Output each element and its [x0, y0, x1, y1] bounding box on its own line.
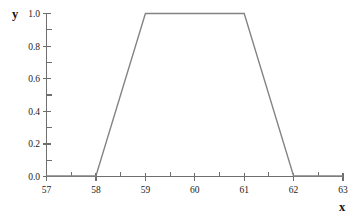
x-tick-label: 58	[91, 185, 101, 195]
x-tick-label: 60	[190, 185, 200, 195]
y-tick-label: 0.4	[28, 107, 40, 117]
axes-group	[46, 13, 343, 177]
x-tick-label: 59	[141, 185, 151, 195]
x-axis-title: x	[339, 200, 346, 214]
y-axis-minor-ticks	[47, 30, 52, 160]
y-tick-label: 1.0	[28, 9, 40, 19]
x-tick-label: 63	[338, 185, 348, 195]
x-tick-label: 57	[42, 185, 52, 195]
y-axis-tick-labels: 1.0 0.8 0.6 0.4 0.2 0.0	[28, 9, 40, 182]
y-tick-label: 0.0	[28, 172, 40, 182]
x-tick-label: 61	[239, 185, 249, 195]
series-trapezoidal-membership-function	[46, 14, 343, 177]
x-axis-tick-labels: 57 58 59 60 61 62 63	[42, 185, 348, 195]
chart-figure: 1.0 0.8 0.6 0.4 0.2 0.0 57 58 59 60 61 6…	[0, 0, 362, 218]
trapezoid-plot-canvas: 1.0 0.8 0.6 0.4 0.2 0.0 57 58 59 60 61 6…	[0, 0, 362, 218]
x-tick-label: 62	[289, 185, 299, 195]
y-tick-label: 0.8	[28, 42, 40, 52]
y-tick-label: 0.2	[28, 139, 40, 149]
y-axis-title: y	[12, 7, 19, 21]
y-tick-label: 0.6	[28, 74, 40, 84]
